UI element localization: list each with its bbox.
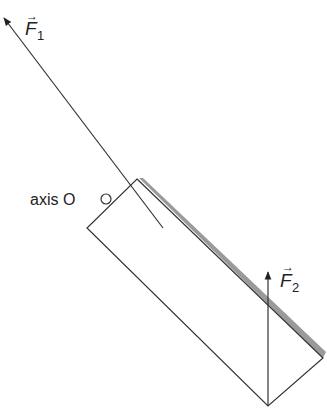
axis-label: axis O [30,191,75,208]
force-f1-arrow [4,18,163,228]
force-f2-label: → F 2 [280,260,299,295]
force-f1-label: → F 1 [25,9,44,43]
svg-text:2: 2 [292,280,299,295]
svg-text:1: 1 [37,28,44,43]
axis-pivot-icon [101,194,111,204]
block-shadow [139,178,326,358]
block [87,179,323,406]
force-diagram: → F 1 → F 2 axis O [0,0,327,412]
